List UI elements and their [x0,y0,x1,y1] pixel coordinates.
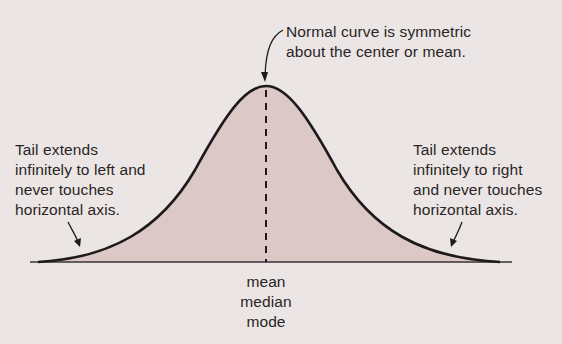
mean-label: mean [226,272,306,292]
top-arrowhead-icon [261,72,268,82]
symmetry-annotation-line2: about the center or mean. [286,42,471,62]
right-tail-line4: horizontal axis. [413,200,542,220]
left-tail-line3: never touches [15,180,146,200]
right-arrowhead-icon [450,238,457,247]
center-labels: mean median mode [226,272,306,332]
left-tail-line1: Tail extends [15,140,146,160]
mode-label: mode [226,312,306,332]
symmetry-annotation-line1: Normal curve is symmetric [286,22,471,42]
left-tail-annotation: Tail extends infinitely to left and neve… [15,140,146,220]
right-tail-line3: and never touches [413,180,542,200]
right-tail-line1: Tail extends [413,140,542,160]
median-label: median [226,292,306,312]
left-tail-line2: infinitely to left and [15,160,146,180]
left-arrow-icon [68,222,78,242]
right-tail-annotation: Tail extends infinitely to right and nev… [413,140,542,220]
right-tail-line2: infinitely to right [413,160,542,180]
symmetry-annotation: Normal curve is symmetric about the cent… [286,22,471,62]
top-arrow-icon [265,30,283,76]
left-tail-line4: horizontal axis. [15,200,146,220]
right-arrow-icon [453,222,462,242]
